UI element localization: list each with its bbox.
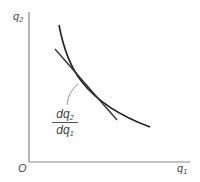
slope-numerator: dq2 — [52, 108, 78, 121]
y-axis-label-sub: 2 — [19, 16, 23, 23]
slope-label: dq2 dq1 — [52, 108, 78, 137]
leader-arc — [67, 84, 78, 105]
denominator-base: dq — [56, 123, 69, 137]
numerator-base: dq — [56, 107, 69, 121]
denominator-sub: 1 — [70, 130, 74, 137]
diagram-canvas — [0, 0, 200, 182]
numerator-sub: 2 — [70, 114, 74, 121]
y-axis-label: q2 — [13, 11, 23, 23]
slope-denominator: dq1 — [52, 124, 78, 137]
origin-label: O — [18, 163, 27, 174]
x-axis-label-sub: 1 — [183, 168, 187, 175]
x-axis-label: q1 — [177, 163, 187, 175]
